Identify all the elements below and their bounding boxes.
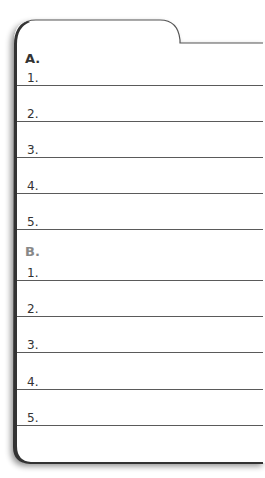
section-a-heading: A. bbox=[25, 52, 40, 66]
section-b-item-2-line[interactable] bbox=[17, 316, 263, 317]
section-b-item-3-line[interactable] bbox=[17, 352, 263, 353]
section-a-item-4-number: 4. bbox=[27, 180, 38, 192]
section-b-item-3-number: 3. bbox=[27, 339, 38, 351]
section-b-item-2-number: 2. bbox=[27, 303, 38, 315]
section-a-item-5-number: 5. bbox=[27, 216, 38, 228]
section-b-item-1-line[interactable] bbox=[17, 280, 263, 281]
folder-card: A. 1. 2. 3. 4. 5. B. 1. 2. 3. 4. 5. bbox=[0, 0, 265, 478]
section-a-item-3-number: 3. bbox=[27, 144, 38, 156]
section-b-item-1-number: 1. bbox=[27, 267, 38, 279]
section-a-item-2-number: 2. bbox=[27, 108, 38, 120]
section-a-item-3-line[interactable] bbox=[17, 157, 263, 158]
section-a-label: A. bbox=[25, 51, 40, 66]
section-b-item-4-number: 4. bbox=[27, 376, 38, 388]
section-b-item-4-line[interactable] bbox=[17, 389, 263, 390]
section-b-item-5-number: 5. bbox=[27, 412, 38, 424]
section-a-item-1-number: 1. bbox=[27, 72, 38, 84]
section-a-item-2-line[interactable] bbox=[17, 121, 263, 122]
section-a-item-4-line[interactable] bbox=[17, 193, 263, 194]
section-a-item-1-line[interactable] bbox=[17, 85, 263, 86]
section-b-heading: B. bbox=[25, 245, 40, 259]
section-b-label: B. bbox=[25, 244, 40, 259]
folder-outline bbox=[0, 0, 265, 478]
section-b-item-5-line[interactable] bbox=[17, 425, 263, 426]
section-a-item-5-line[interactable] bbox=[17, 229, 263, 230]
